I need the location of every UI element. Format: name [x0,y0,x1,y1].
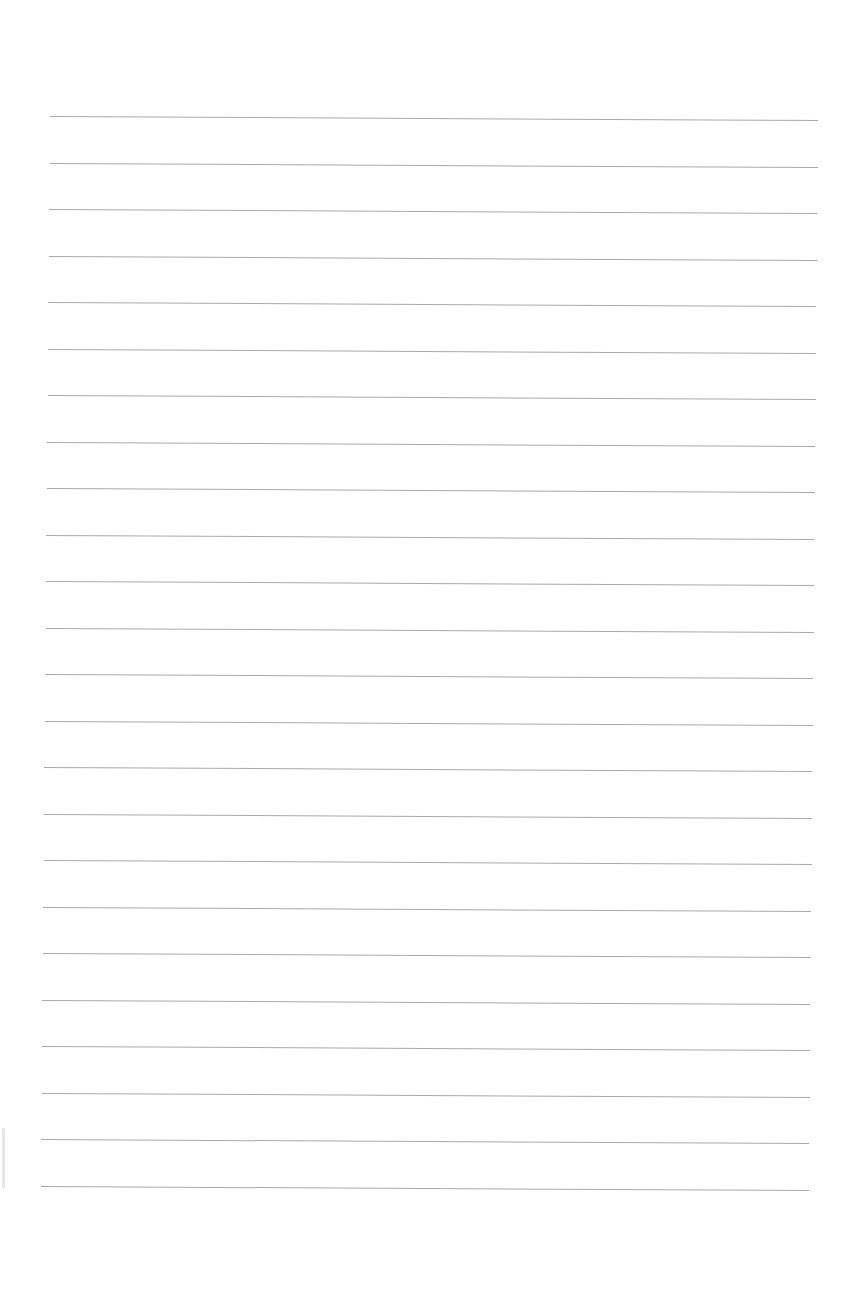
ruled-line [47,488,815,493]
ruled-line [48,302,816,307]
ruled-line [45,674,813,679]
ruled-line [44,767,812,772]
ruled-line [44,860,812,865]
ruled-line [46,535,814,540]
ruled-line [49,209,817,214]
ruled-line [46,628,814,633]
ruled-line [48,349,816,354]
ruled-line [43,953,811,958]
ruled-line [41,1139,809,1144]
ruled-line [41,1186,809,1191]
ruled-line [49,256,817,261]
ruled-line [48,395,816,400]
ruled-line [42,1093,810,1098]
ruled-line [43,907,811,912]
ruled-line [42,1000,810,1005]
ruled-line [42,1046,810,1051]
ruled-line [50,163,818,168]
scan-edge-mark [2,1128,5,1188]
ruled-line [47,442,815,447]
ruled-lines [0,0,859,1300]
ruled-line [50,116,818,121]
ruled-line [45,721,813,726]
ruled-line [46,581,814,586]
lined-page [0,0,859,1300]
ruled-line [44,814,812,819]
